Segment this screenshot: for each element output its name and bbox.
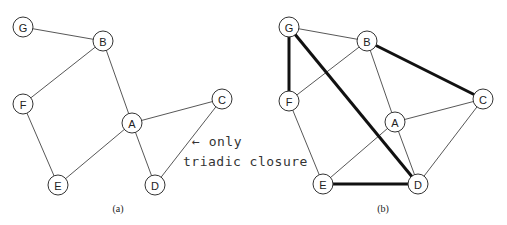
edge-F-E — [289, 101, 323, 184]
panel-caption: (a) — [112, 203, 123, 215]
annotation-text: triadic closure — [183, 154, 308, 169]
annotation-arrow-text: ← only — [192, 134, 242, 149]
node-label-F: F — [286, 96, 293, 108]
node-label-C: C — [479, 94, 487, 106]
node-label-B: B — [363, 36, 370, 48]
edge-A-C — [395, 99, 483, 122]
node-label-A: A — [391, 117, 399, 129]
edge-B-F — [23, 41, 103, 104]
bold-edge-G-D — [289, 27, 418, 184]
node-label-G: G — [19, 22, 28, 34]
edge-B-F — [289, 41, 367, 101]
node-label-F: F — [20, 99, 27, 111]
node-label-E: E — [319, 179, 326, 191]
node-label-A: A — [128, 118, 136, 130]
node-label-D: D — [151, 180, 159, 192]
graph-figure: GBFACED(a)← onlytriadic closureGBFACED(b… — [0, 0, 507, 225]
node-label-G: G — [285, 22, 294, 34]
node-label-E: E — [54, 180, 61, 192]
node-label-C: C — [218, 94, 226, 106]
node-label-B: B — [99, 36, 106, 48]
edge-A-C — [132, 99, 222, 123]
edge-G-B — [23, 27, 103, 41]
edge-C-D — [418, 99, 483, 184]
edge-F-E — [23, 104, 58, 185]
panel-caption: (b) — [377, 203, 389, 215]
edge-A-E — [323, 122, 395, 184]
edge-A-E — [58, 123, 132, 185]
node-label-D: D — [414, 179, 422, 191]
edge-B-A — [103, 41, 132, 123]
